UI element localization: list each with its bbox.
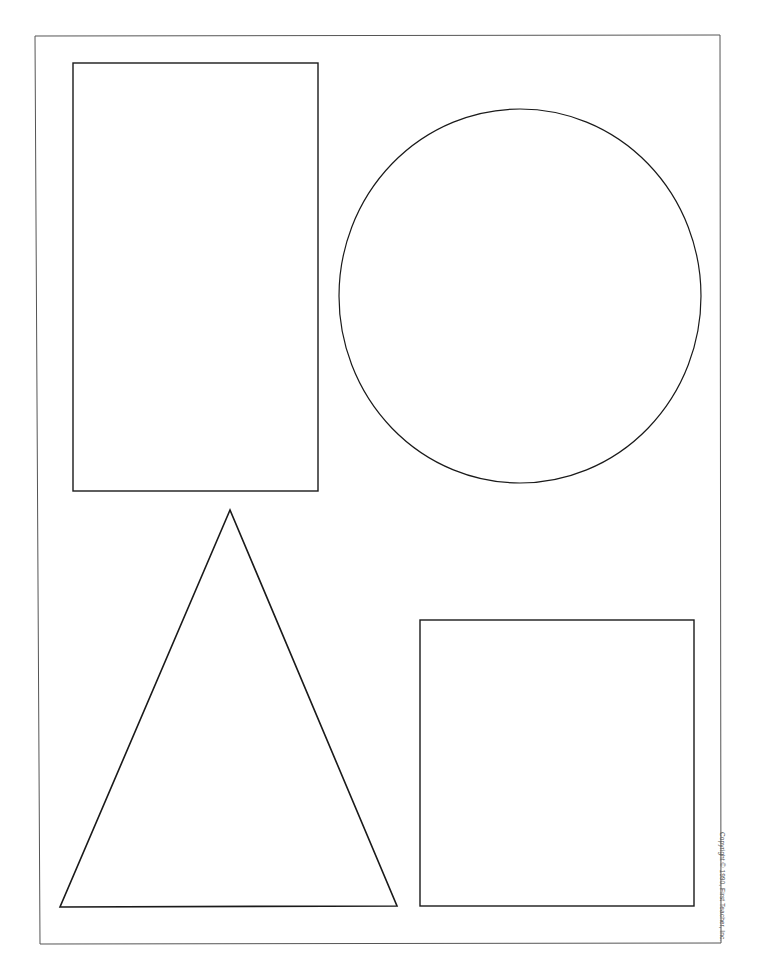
shapes-canvas xyxy=(0,0,763,963)
worksheet-page: Copyright © 1990, First Teacher, Inc. xyxy=(0,0,763,963)
copyright-text: Copyright © 1990, First Teacher, Inc. xyxy=(719,832,726,942)
page-border xyxy=(35,35,721,944)
rectangle-shape xyxy=(73,63,318,491)
circle-shape xyxy=(339,109,701,483)
square-shape xyxy=(420,620,694,906)
triangle-shape xyxy=(60,510,397,907)
